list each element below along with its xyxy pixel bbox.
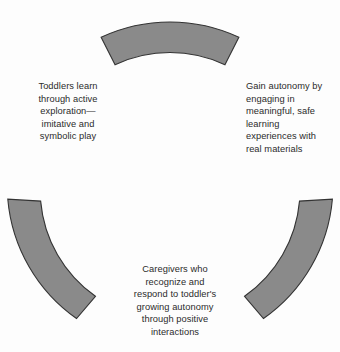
arc-segment-top [101,22,239,65]
cycle-label-bottom: Caregivers who recognize and respond to … [116,263,234,339]
cycle-label-left: Toddlers learn through active exploratio… [18,80,118,143]
cycle-diagram: Toddlers learn through active exploratio… [0,0,340,352]
arc-segment-right [245,199,333,318]
arc-segment-left [8,199,96,318]
cycle-label-right: Gain autonomy by engaging in meaningful,… [246,80,338,156]
